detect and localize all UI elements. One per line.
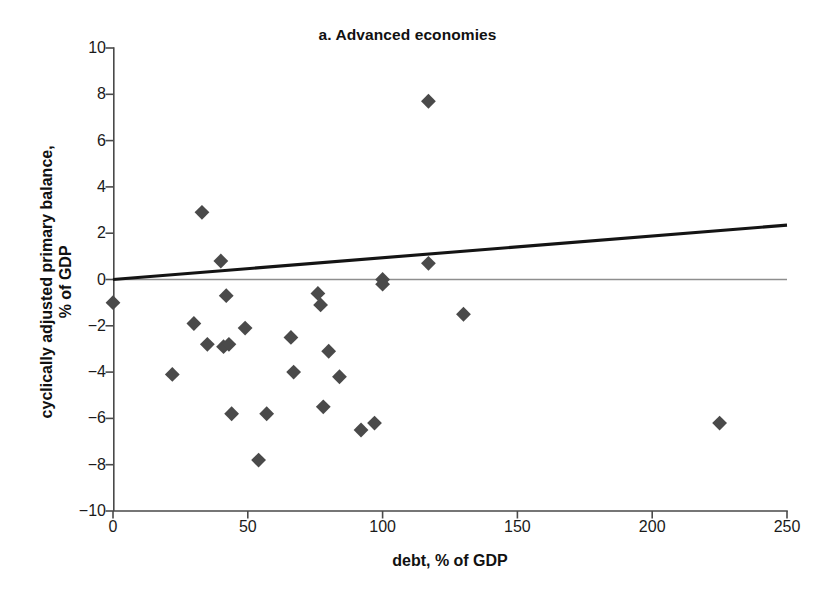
data-point-marker: [251, 453, 266, 468]
data-point-marker: [456, 307, 471, 322]
data-point-marker: [421, 256, 436, 271]
data-point-marker: [186, 316, 201, 331]
data-point-marker: [421, 94, 436, 109]
data-point-marker: [316, 399, 331, 414]
plot-svg: [113, 48, 787, 511]
y-tick-label: 0: [60, 272, 106, 288]
x-tick-label: 50: [218, 519, 278, 535]
x-tick-label: 0: [83, 519, 143, 535]
data-point-marker: [284, 330, 299, 345]
x-axis-tick-labels: 050100150200250: [113, 519, 787, 545]
x-tick-label: 200: [622, 519, 682, 535]
data-point-marker: [286, 365, 301, 380]
data-point-marker: [332, 369, 347, 384]
y-tick-label: 2: [60, 225, 106, 241]
data-point-marker: [321, 344, 336, 359]
data-point-marker: [213, 254, 228, 269]
chart-figure: a. Advanced economies cyclically adjuste…: [0, 0, 815, 592]
data-point-marker: [224, 406, 239, 421]
chart-title: a. Advanced economies: [0, 26, 815, 44]
y-tick-label: 6: [60, 133, 106, 149]
data-point-marker: [310, 286, 325, 301]
data-point-marker: [195, 205, 210, 220]
plot-area: [113, 48, 787, 511]
scatter-markers: [106, 94, 727, 468]
y-tick-label: −2: [60, 318, 106, 334]
y-tick-label: −4: [60, 364, 106, 380]
y-tick-label: −8: [60, 457, 106, 473]
y-tick-label: −6: [60, 410, 106, 426]
y-axis-tick-labels: −10−8−6−4−20246810: [52, 48, 106, 511]
data-point-marker: [712, 416, 727, 431]
y-tick-label: 8: [60, 86, 106, 102]
trend-line: [113, 225, 787, 279]
x-axis-ticks: [113, 511, 787, 519]
data-point-marker: [259, 406, 274, 421]
y-tick-label: 4: [60, 179, 106, 195]
data-point-marker: [238, 321, 253, 336]
data-point-marker: [200, 337, 215, 352]
y-tick-label: −10: [60, 503, 106, 519]
x-axis-title: debt, % of GDP: [113, 552, 787, 570]
x-tick-label: 100: [353, 519, 413, 535]
x-tick-label: 250: [757, 519, 815, 535]
data-point-marker: [354, 423, 369, 438]
data-point-marker: [367, 416, 382, 431]
y-tick-label: 10: [60, 40, 106, 56]
data-point-marker: [219, 288, 234, 303]
x-tick-label: 150: [487, 519, 547, 535]
data-point-marker: [313, 298, 328, 313]
data-point-marker: [165, 367, 180, 382]
